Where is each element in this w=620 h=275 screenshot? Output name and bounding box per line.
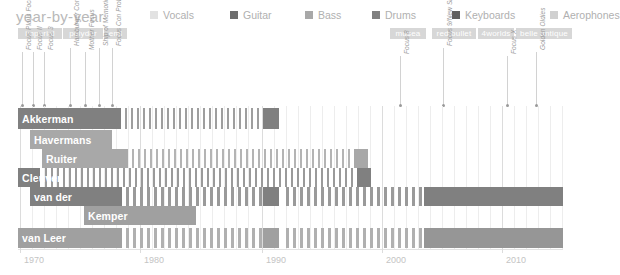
timeline-bar-segment[interactable] [258, 149, 260, 168]
timeline-bar-segment[interactable] [168, 228, 171, 248]
timeline-bar-segment[interactable] [238, 228, 241, 248]
timeline-bar-segment[interactable] [154, 228, 157, 248]
timeline-bar-segment[interactable] [224, 228, 227, 248]
timeline-bar-segment[interactable] [87, 168, 89, 187]
timeline-bar-segment[interactable] [321, 168, 323, 187]
timeline-bar-segment[interactable] [424, 187, 563, 206]
record-label-pill[interactable]: polydor [63, 28, 103, 39]
timeline-bar-segment[interactable] [168, 149, 170, 168]
timeline-bar-segment[interactable] [291, 168, 293, 187]
timeline-bar-segment[interactable] [161, 228, 164, 248]
timeline-bar-segment[interactable] [222, 149, 224, 168]
timeline-bar-segment[interactable] [309, 168, 311, 187]
timeline-bar-segment[interactable] [307, 187, 310, 206]
timeline-bar-segment[interactable] [192, 149, 194, 168]
timeline-bar-segment[interactable] [233, 108, 235, 129]
timeline-bar-segment[interactable] [93, 168, 95, 187]
timeline-bar-segment[interactable] [147, 228, 150, 248]
timeline-bar-segment[interactable] [162, 149, 164, 168]
timeline-bar-segment[interactable] [105, 168, 107, 187]
timeline-bar-segment[interactable] [356, 228, 359, 248]
timeline-bar-segment[interactable] [252, 149, 254, 168]
timeline-bar-segment[interactable] [300, 228, 303, 248]
timeline-bar-segment[interactable] [177, 168, 179, 187]
timeline-bar-segment[interactable] [405, 228, 408, 248]
timeline-bar-segment[interactable] [377, 187, 380, 206]
timeline-bar-segment[interactable] [149, 108, 151, 129]
timeline-bar-segment[interactable] [99, 168, 101, 187]
timeline-bar-segment[interactable] [203, 108, 205, 129]
timeline-bar-segment[interactable] [231, 228, 234, 248]
timeline-bar-segment[interactable] [63, 168, 65, 187]
timeline-bar-segment[interactable] [224, 187, 227, 206]
timeline-bar-segment[interactable] [391, 187, 394, 206]
timeline-bar-segment[interactable] [215, 108, 217, 129]
timeline-bar-segment[interactable] [210, 187, 213, 206]
timeline-bar-segment[interactable] [189, 168, 191, 187]
timeline-bar-segment[interactable] [356, 187, 359, 206]
timeline-bar-segment[interactable] [339, 168, 341, 187]
timeline-bar-segment[interactable] [197, 108, 199, 129]
timeline-bar-segment[interactable] [273, 168, 275, 187]
timeline-bar-segment[interactable] [203, 228, 206, 248]
timeline-bar-segment[interactable] [182, 228, 185, 248]
timeline-bar-segment[interactable] [251, 108, 253, 129]
timeline-bar-segment[interactable] [257, 108, 259, 129]
timeline-bar-segment[interactable] [363, 187, 366, 206]
timeline-bar-segment[interactable] [204, 149, 206, 168]
timeline-bar-segment[interactable] [182, 187, 185, 206]
timeline-bar-segment[interactable] [363, 228, 366, 248]
timeline-bar-segment[interactable] [297, 168, 299, 187]
timeline-bar-segment[interactable] [240, 149, 242, 168]
timeline-bar-segment[interactable] [147, 187, 150, 206]
timeline-bar-segment[interactable] [133, 228, 136, 248]
timeline-bar-segment[interactable] [165, 168, 167, 187]
timeline-bar-segment[interactable] [144, 149, 146, 168]
timeline-bar-segment[interactable] [231, 187, 234, 206]
timeline-bar-segment[interactable] [270, 149, 272, 168]
timeline-bar-segment[interactable] [318, 149, 320, 168]
timeline-bar-segment[interactable] [138, 149, 140, 168]
timeline-bar-segment[interactable] [195, 168, 197, 187]
timeline-bar-segment[interactable] [168, 187, 171, 206]
timeline-bar-segment[interactable] [189, 187, 192, 206]
timeline-bar-segment[interactable] [276, 149, 278, 168]
timeline-bar-segment[interactable] [330, 149, 332, 168]
timeline-bar-segment[interactable] [129, 168, 131, 187]
timeline-bar-segment[interactable] [328, 228, 331, 248]
timeline-bar-segment[interactable] [357, 168, 371, 187]
timeline-bar-segment[interactable] [249, 168, 251, 187]
timeline-bar-segment[interactable] [294, 149, 296, 168]
timeline-bar-segment[interactable] [259, 187, 262, 206]
timeline-bar-segment[interactable] [335, 228, 338, 248]
timeline-bar-segment[interactable] [140, 187, 143, 206]
timeline-bar-segment[interactable] [342, 149, 344, 168]
timeline-bar-segment[interactable] [354, 149, 368, 168]
timeline-bar-segment[interactable] [424, 228, 563, 248]
timeline-bar-segment[interactable] [196, 187, 199, 206]
timeline-bar-segment[interactable] [263, 187, 279, 206]
timeline-bar-segment[interactable] [335, 187, 338, 206]
legend-item-keyboards[interactable]: Keyboards [452, 10, 515, 20]
timeline-bar-segment[interactable] [198, 149, 200, 168]
timeline-bar-segment[interactable] [419, 228, 422, 248]
timeline-bar-segment[interactable] [150, 149, 152, 168]
timeline-bar-segment[interactable] [75, 168, 77, 187]
timeline-bar-segment[interactable] [227, 108, 229, 129]
timeline-bar-segment[interactable] [209, 108, 211, 129]
timeline-bar-segment[interactable] [189, 228, 192, 248]
timeline-bar-segment[interactable] [245, 108, 247, 129]
timeline-bar-segment[interactable] [391, 228, 394, 248]
timeline-bar-segment[interactable] [179, 108, 181, 129]
timeline-bar-segment[interactable] [238, 187, 241, 206]
timeline-bar-segment[interactable] [377, 228, 380, 248]
timeline-bar-segment[interactable] [147, 168, 149, 187]
timeline-bar-segment[interactable] [143, 108, 145, 129]
timeline-bar-segment[interactable] [349, 228, 352, 248]
legend-item-guitar[interactable]: Guitar [230, 10, 272, 20]
timeline-bar-segment[interactable] [213, 168, 215, 187]
timeline-bar-segment[interactable] [342, 187, 345, 206]
timeline-bar-segment[interactable] [293, 187, 296, 206]
timeline-bar-segment[interactable] [217, 187, 220, 206]
timeline-bar-segment[interactable] [345, 168, 347, 187]
